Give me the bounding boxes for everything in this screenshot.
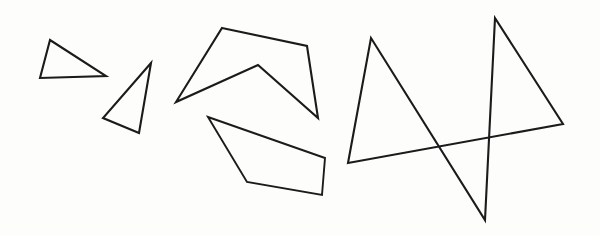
shapes-svg bbox=[0, 0, 600, 236]
drawing-canvas bbox=[0, 0, 600, 236]
paper-background bbox=[0, 0, 600, 236]
